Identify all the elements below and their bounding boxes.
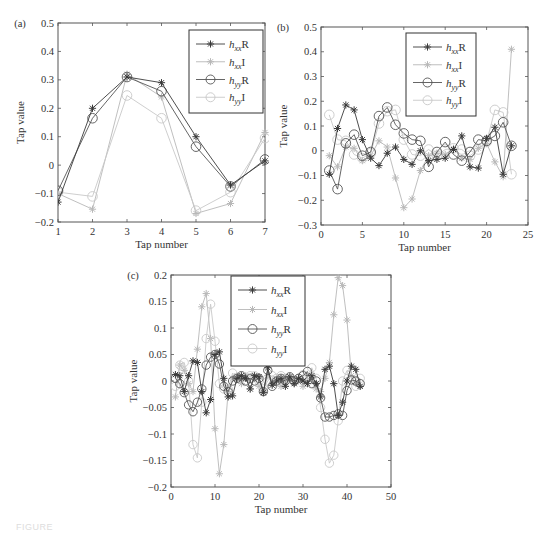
star-marker-icon	[229, 392, 236, 399]
star-marker-icon	[466, 163, 473, 170]
star-marker-icon	[227, 181, 234, 188]
star-marker-icon	[334, 163, 341, 170]
x-tick-label: 0	[318, 229, 323, 240]
star-marker-icon	[384, 150, 391, 157]
x-tick-label: 5	[360, 229, 365, 240]
star-marker-icon	[330, 311, 337, 318]
y-tick-label: 0.1	[304, 121, 317, 132]
y-tick-label: −0.1	[298, 170, 317, 181]
star-marker-icon	[277, 375, 284, 382]
star-marker-icon	[326, 363, 333, 370]
star-marker-icon	[352, 366, 359, 373]
star-marker-icon	[194, 346, 201, 353]
x-tick-label: 4	[159, 226, 165, 237]
star-marker-icon	[227, 200, 234, 207]
star-marker-icon	[192, 133, 199, 140]
star-marker-icon	[424, 61, 431, 68]
y-axis-label: Tap value	[127, 359, 139, 402]
chart-c: −0.2−0.15−0.1−0.0500.050.10.150.20102030…	[127, 270, 396, 516]
star-marker-icon	[343, 316, 350, 323]
star-marker-icon	[384, 143, 391, 150]
figure-container: −0.2−0.100.10.20.30.40.51234567Tap numbe…	[0, 0, 551, 536]
panel-label: (a)	[14, 18, 26, 30]
x-axis-label: Tap number	[398, 241, 451, 253]
x-tick-label: 6	[228, 226, 233, 237]
legend-a: hxxRhxxIhyyRhyyI	[189, 30, 263, 113]
y-tick-label: 0.3	[304, 71, 317, 82]
y-tick-label: −0.1	[35, 188, 54, 199]
star-marker-icon	[417, 147, 424, 154]
x-tick-label: 3	[124, 226, 129, 237]
star-marker-icon	[181, 388, 188, 395]
y-tick-label: 0.15	[149, 296, 167, 307]
star-marker-icon	[260, 389, 267, 396]
y-tick-label: 0.2	[154, 270, 167, 281]
star-marker-icon	[458, 132, 465, 139]
panel-label: (c)	[127, 270, 139, 282]
figure-caption: FIGURE	[16, 522, 53, 532]
star-marker-icon	[339, 399, 346, 406]
star-marker-icon	[89, 206, 96, 213]
star-marker-icon	[198, 303, 205, 310]
star-marker-icon	[286, 373, 293, 380]
y-tick-label: −0.2	[148, 482, 167, 493]
y-tick-label: 0.3	[41, 74, 54, 85]
y-tick-label: 0.5	[304, 22, 317, 33]
star-marker-icon	[400, 156, 407, 163]
star-marker-icon	[220, 441, 227, 448]
star-marker-icon	[291, 380, 298, 387]
star-marker-icon	[335, 274, 342, 281]
y-tick-label: −0.2	[298, 195, 317, 206]
star-marker-icon	[408, 161, 415, 168]
star-marker-icon	[321, 366, 328, 373]
star-marker-icon	[343, 377, 350, 384]
y-tick-label: 0.4	[304, 46, 318, 57]
star-marker-icon	[357, 383, 364, 390]
star-marker-icon	[475, 164, 482, 171]
star-marker-icon	[247, 385, 254, 392]
star-marker-icon	[282, 383, 289, 390]
star-marker-icon	[216, 348, 223, 355]
star-marker-icon	[261, 157, 268, 164]
star-marker-icon	[491, 124, 498, 131]
star-marker-icon	[207, 40, 214, 47]
star-marker-icon	[313, 380, 320, 387]
y-tick-label: 0	[312, 145, 317, 156]
star-marker-icon	[375, 162, 382, 169]
x-tick-label: 10	[399, 229, 410, 240]
star-marker-icon	[249, 306, 256, 313]
star-marker-icon	[335, 412, 342, 419]
x-tick-label: 20	[254, 491, 265, 502]
star-marker-icon	[326, 171, 333, 178]
chart-a: −0.2−0.100.10.20.30.40.51234567Tap numbe…	[14, 18, 270, 251]
star-marker-icon	[203, 409, 210, 416]
y-tick-label: −0.05	[143, 402, 167, 413]
star-marker-icon	[317, 393, 324, 400]
star-marker-icon	[330, 380, 337, 387]
y-tick-label: 0.4	[41, 46, 55, 57]
legend-b: hxxRhxxIhyyRhyyI	[406, 33, 476, 116]
y-axis-label: Tap value	[277, 104, 289, 147]
x-tick-label: 0	[168, 491, 173, 502]
y-tick-label: −0.1	[148, 429, 167, 440]
star-marker-icon	[425, 157, 432, 164]
star-marker-icon	[392, 174, 399, 181]
y-tick-label: 0.1	[154, 323, 167, 334]
y-tick-label: 0.2	[41, 103, 54, 114]
star-marker-icon	[508, 46, 515, 53]
star-marker-icon	[321, 375, 328, 382]
star-marker-icon	[158, 93, 165, 100]
y-tick-label: 0	[162, 376, 167, 387]
x-axis-label: Tap number	[135, 238, 188, 250]
x-tick-label: 40	[342, 491, 353, 502]
star-marker-icon	[89, 105, 96, 112]
y-tick-label: 0.2	[304, 96, 317, 107]
star-marker-icon	[158, 79, 165, 86]
star-marker-icon	[359, 136, 366, 143]
star-marker-icon	[198, 388, 205, 395]
star-marker-icon	[450, 146, 457, 153]
y-tick-label: 0.1	[41, 131, 54, 142]
star-marker-icon	[207, 58, 214, 65]
figure-svg: −0.2−0.100.10.20.30.40.51234567Tap numbe…	[0, 0, 551, 536]
star-marker-icon	[508, 142, 515, 149]
